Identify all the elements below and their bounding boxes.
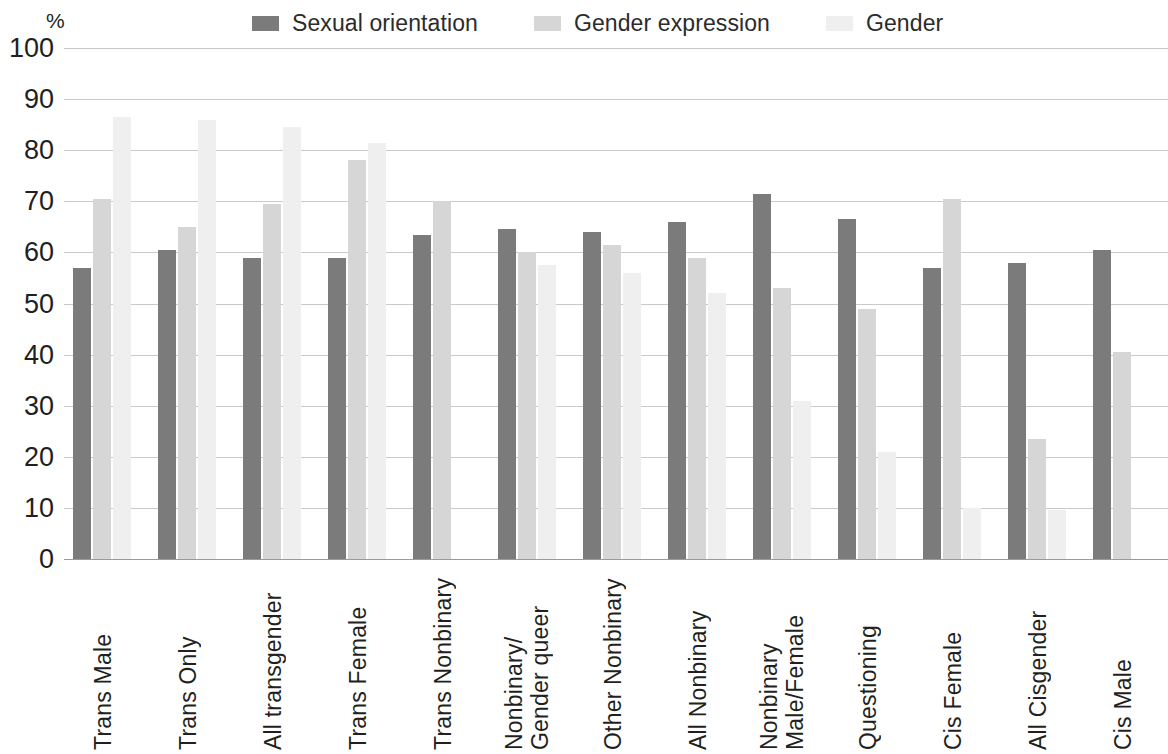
y-axis-tick-label: 20 — [24, 443, 54, 470]
chart-legend: Sexual orientationGender expressionGende… — [252, 9, 1082, 37]
x-axis-tick-label: All Cisgender — [1025, 562, 1051, 750]
gridline — [64, 48, 1168, 49]
gridline — [64, 304, 1168, 305]
x-axis-tick-label: Trans Nonbinary — [430, 562, 456, 750]
legend-label: Gender expression — [574, 12, 770, 35]
y-axis-tick-label: 80 — [24, 137, 54, 164]
legend-label: Sexual orientation — [292, 12, 478, 35]
gridline — [64, 99, 1168, 100]
y-axis-tick-label: 100 — [9, 35, 54, 62]
legend-item[interactable]: Gender expression — [534, 12, 770, 35]
gridline — [64, 559, 1168, 560]
x-axis-tick-label: Cis Female — [940, 562, 966, 750]
y-axis-tick-label: 90 — [24, 86, 54, 113]
x-axis-tick-label: Questioning — [855, 562, 881, 750]
x-axis-tick-label: Nonbinary/ Gender queer — [501, 562, 553, 750]
y-axis-tick-label: 40 — [24, 341, 54, 368]
y-axis-tick-label: 70 — [24, 188, 54, 215]
x-axis-tick-label: All transgender — [260, 562, 286, 750]
legend-swatch-icon — [826, 16, 853, 31]
x-axis-tick-label: Nonbinary Male/Female — [756, 562, 808, 750]
legend-item[interactable]: Gender — [826, 12, 943, 35]
gridline — [64, 150, 1168, 151]
x-axis-tick-label: Trans Male — [90, 562, 116, 750]
gridline — [64, 252, 1168, 253]
gridline — [64, 406, 1168, 407]
gridline — [64, 355, 1168, 356]
x-axis-tick-label: Other Nonbinary — [600, 562, 626, 750]
bar-chart: Sexual orientationGender expressionGende… — [0, 0, 1168, 754]
legend-label: Gender — [866, 12, 943, 35]
plot-area — [64, 48, 1168, 559]
x-axis-tick-label: Cis Male — [1110, 562, 1136, 750]
y-axis-tick-label: 30 — [24, 392, 54, 419]
gridline — [64, 457, 1168, 458]
gridline — [64, 201, 1168, 202]
legend-item[interactable]: Sexual orientation — [252, 12, 478, 35]
x-axis-tick-label: Trans Only — [175, 562, 201, 750]
gridline — [64, 508, 1168, 509]
legend-swatch-icon — [252, 16, 279, 31]
y-axis-tick-label: 50 — [24, 290, 54, 317]
x-axis-tick-label: Trans Female — [345, 562, 371, 750]
y-axis-tick-label: 60 — [24, 239, 54, 266]
y-axis-tick-label: 0 — [39, 546, 54, 573]
y-axis-tick-label: 10 — [24, 494, 54, 521]
y-axis-unit: % — [46, 10, 65, 31]
x-axis-tick-label: All Nonbinary — [685, 562, 711, 750]
x-axis: Trans MaleTrans OnlyAll transgenderTrans… — [64, 562, 1168, 754]
legend-swatch-icon — [534, 16, 561, 31]
y-axis: % 1009080706050403020100 — [0, 0, 64, 600]
